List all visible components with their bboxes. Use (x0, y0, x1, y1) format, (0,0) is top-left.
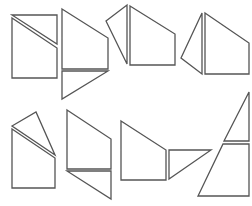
figure-7-quad-piece (121, 121, 166, 180)
figure-6 (67, 110, 111, 199)
figure-7-triangle-piece (169, 150, 211, 179)
figure-4-triangle-piece (181, 13, 202, 74)
figure-6-triangle-piece (67, 171, 111, 199)
dissection-diagram (0, 0, 252, 206)
figure-8-triangle-piece (224, 92, 249, 141)
figure-2-quad-piece (62, 9, 108, 69)
figure-8 (198, 92, 249, 196)
figure-3-quad-piece (130, 6, 175, 65)
figure-6-quad-piece (67, 110, 111, 169)
diagram-canvas (0, 0, 252, 206)
figure-3-triangle-piece (106, 5, 127, 64)
figure-4-quad-piece (205, 13, 249, 74)
figure-2 (62, 9, 108, 99)
figure-3 (106, 5, 175, 65)
figure-4 (181, 13, 249, 74)
figure-5 (12, 112, 55, 188)
figure-7 (121, 121, 211, 180)
figure-2-triangle-piece (62, 71, 108, 99)
figure-1 (12, 15, 57, 78)
